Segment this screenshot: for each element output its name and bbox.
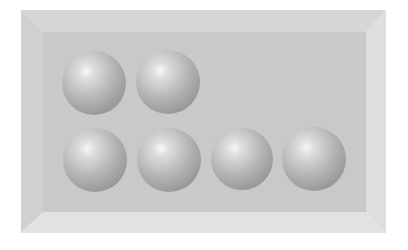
sphere-bottom-row-2 <box>137 128 201 192</box>
sphere-bottom-row-4 <box>282 127 346 191</box>
tray <box>21 10 386 233</box>
tray-bevel <box>21 10 386 233</box>
tray-bevel-top <box>21 10 386 32</box>
sphere-bottom-row-3 <box>211 128 273 190</box>
tray-bevel-right <box>366 10 386 233</box>
sphere-bottom-row-1 <box>63 128 127 192</box>
tray-bevel-left <box>21 10 43 233</box>
sphere-top-row-2 <box>136 50 200 114</box>
tray-bevel-bottom <box>21 212 386 233</box>
sphere-top-row-1 <box>62 51 126 115</box>
